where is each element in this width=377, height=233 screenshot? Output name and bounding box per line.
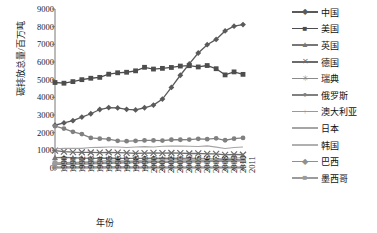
legend-label: 美国 — [318, 22, 339, 35]
legend-item-澳大利亚[interactable]: +澳大利亚 — [292, 104, 377, 121]
chart-legend: ◆中国■美国▲英国✕德国✳瑞典●俄罗斯+澳大利亚日本韩国◆巴西■墨西哥 — [292, 4, 377, 187]
legend-line — [292, 144, 318, 146]
x-axis-title: 年份 — [96, 216, 114, 229]
legend-marker-icon: + — [292, 105, 318, 119]
legend-marker-icon: ■ — [292, 22, 318, 36]
legend-glyph-circle-icon: ● — [303, 91, 308, 99]
legend-glyph-square-icon: ■ — [303, 25, 308, 33]
legend-label: 澳大利亚 — [318, 105, 357, 118]
legend-label: 墨西哥 — [318, 172, 348, 185]
x-axis-tick-label: 2011 — [247, 156, 257, 173]
legend-marker-icon: ◆ — [292, 155, 318, 169]
legend-marker-icon: ✳ — [292, 72, 318, 86]
legend-marker-icon: ▲ — [292, 38, 318, 52]
legend-glyph-square-icon: ■ — [303, 174, 308, 182]
legend-item-韩国[interactable]: 韩国 — [292, 137, 377, 154]
legend-line — [292, 127, 318, 129]
legend-glyph-star-icon: ✳ — [302, 75, 309, 83]
legend-label: 日本 — [318, 122, 339, 135]
legend-marker-icon: ● — [292, 88, 318, 102]
legend-marker-icon — [292, 138, 318, 152]
legend-glyph-cross-icon: ✕ — [302, 58, 309, 66]
legend-label: 英国 — [318, 39, 339, 52]
legend-label: 韩国 — [318, 139, 339, 152]
legend-label: 瑞典 — [318, 72, 339, 85]
legend-glyph-diamond-icon: ◆ — [302, 8, 308, 16]
legend-marker-icon — [292, 121, 318, 135]
legend-marker-icon: ✕ — [292, 55, 318, 69]
legend-item-瑞典[interactable]: ✳瑞典 — [292, 70, 377, 87]
legend-glyph-plus-icon: + — [303, 108, 308, 116]
legend-item-日本[interactable]: 日本 — [292, 120, 377, 137]
legend-item-德国[interactable]: ✕德国 — [292, 54, 377, 71]
legend-marker-icon: ■ — [292, 171, 318, 185]
legend-item-中国[interactable]: ◆中国 — [292, 4, 377, 21]
legend-item-墨西哥[interactable]: ■墨西哥 — [292, 170, 377, 187]
legend-label: 俄罗斯 — [318, 89, 348, 102]
legend-label: 德国 — [318, 56, 339, 69]
legend-item-英国[interactable]: ▲英国 — [292, 37, 377, 54]
legend-marker-icon: ◆ — [292, 5, 318, 19]
legend-label: 中国 — [318, 6, 339, 19]
chart-container: 碳排放总量/百万吨 010002000300040005000600070008… — [0, 0, 377, 233]
legend-item-俄罗斯[interactable]: ●俄罗斯 — [292, 87, 377, 104]
legend-label: 巴西 — [318, 155, 339, 168]
legend-item-巴西[interactable]: ◆巴西 — [292, 153, 377, 170]
legend-glyph-diamond-icon: ◆ — [302, 158, 308, 166]
legend-item-美国[interactable]: ■美国 — [292, 21, 377, 38]
legend-glyph-triangle-icon: ▲ — [301, 41, 309, 49]
